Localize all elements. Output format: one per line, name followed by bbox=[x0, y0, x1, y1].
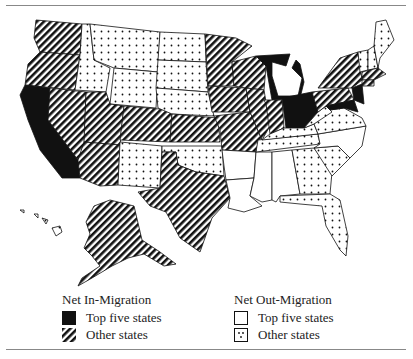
state-maine bbox=[374, 20, 394, 68]
state-kansas bbox=[170, 114, 220, 142]
state-arkansas bbox=[222, 150, 256, 180]
legend-label: Other states bbox=[258, 327, 320, 343]
hatch-swatch-icon bbox=[62, 328, 76, 342]
state-new-york bbox=[318, 52, 362, 88]
state-oregon bbox=[25, 52, 80, 90]
state-alaska bbox=[78, 200, 176, 286]
state-washington bbox=[34, 20, 82, 55]
state-hawaii bbox=[20, 210, 62, 236]
legend-item-in-other: Other states bbox=[62, 326, 162, 343]
bottom-rule bbox=[6, 349, 406, 350]
state-north-dakota bbox=[158, 32, 206, 62]
state-iowa bbox=[208, 86, 250, 112]
legend-out-migration: Net Out-Migration Top five states Other … bbox=[234, 292, 334, 343]
legend-out-title: Net Out-Migration bbox=[234, 292, 334, 308]
blank-swatch-icon bbox=[234, 311, 248, 325]
legend-item-out-top: Top five states bbox=[234, 309, 334, 326]
state-connecticut bbox=[362, 80, 374, 86]
state-new-mexico bbox=[118, 142, 162, 188]
us-migration-map bbox=[0, 0, 413, 300]
state-florida bbox=[280, 194, 348, 256]
legend-in-title: Net In-Migration bbox=[62, 292, 162, 308]
state-south-dakota bbox=[156, 60, 208, 92]
dots-swatch-icon bbox=[234, 328, 248, 342]
state-wyoming bbox=[110, 68, 158, 108]
legend-label: Top five states bbox=[258, 310, 334, 326]
solid-swatch-icon bbox=[62, 311, 76, 325]
legend-item-out-other: Other states bbox=[234, 326, 334, 343]
legend-label: Top five states bbox=[86, 310, 162, 326]
state-vermont bbox=[358, 50, 368, 72]
legend-label: Other states bbox=[86, 327, 148, 343]
state-arizona bbox=[78, 142, 120, 186]
legend-in-migration: Net In-Migration Top five states Other s… bbox=[62, 292, 162, 343]
state-colorado bbox=[120, 106, 172, 142]
legend-item-in-top: Top five states bbox=[62, 309, 162, 326]
